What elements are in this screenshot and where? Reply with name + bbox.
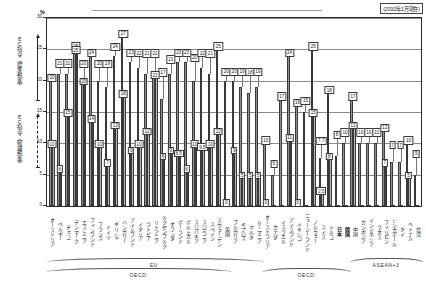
- category-label: エストニア: [79, 208, 87, 256]
- bar-group: 2414: [88, 18, 96, 206]
- bar-group: 7: [397, 18, 405, 206]
- reduced-rate-value: 9: [231, 147, 237, 155]
- category-label: カナダ: [270, 208, 278, 256]
- ec-reduced-label: ＥＣ指令（軽減税率）: [17, 114, 23, 166]
- reduced-rate-bar: [337, 205, 340, 206]
- bar-group: 219: [167, 18, 175, 206]
- reduced-rate-value: 5: [247, 172, 253, 180]
- reduced-rate-bar: [60, 168, 63, 206]
- callout-leader-line: [163, 74, 164, 99]
- bar-group: 2411: [286, 18, 294, 206]
- category-label: スウェーデン: [214, 208, 222, 256]
- reduced-rate-value: 10: [135, 140, 144, 148]
- standard-rate-value: 7.7: [316, 137, 327, 145]
- reduced-rate-bar: [187, 168, 190, 206]
- bar-group: 105: [404, 18, 412, 206]
- reduced-rate-bar: [290, 137, 293, 206]
- reduced-rate-value: 21: [151, 71, 160, 79]
- bar-series-container: 2010216211525252020241420101972413271823…: [47, 18, 421, 206]
- category-label: フィリピン: [381, 208, 389, 256]
- category-label: スイス: [317, 208, 325, 256]
- bar-group: 2413: [111, 18, 119, 206]
- y-axis-tick-mark: [43, 80, 46, 81]
- category-label: カンボジア: [357, 208, 365, 256]
- reduced-rate-value: 10: [48, 140, 57, 148]
- group-bracket-label: OECD: [130, 272, 147, 278]
- bar-group: 2515: [309, 18, 317, 206]
- reduced-rate-value: 2,5: [316, 187, 326, 195]
- callout-leader-line: [107, 66, 108, 87]
- reduced-rate-bar: [305, 205, 308, 206]
- bar-group: 195: [254, 18, 262, 206]
- category-label: ギリシャ: [111, 208, 119, 256]
- category-label: リトアニア: [150, 208, 158, 256]
- bar-group: 7.72,5: [317, 18, 325, 206]
- bar-group: 200: [222, 18, 230, 206]
- callout-leader-line: [393, 147, 394, 162]
- callout-leader-line: [250, 74, 251, 93]
- standard-rate-bar: [295, 106, 298, 206]
- standard-rate-value: 17: [277, 92, 286, 100]
- y-axis-tick-label: 25: [28, 46, 42, 51]
- reduced-rate-bar: [179, 153, 182, 206]
- standard-rate-value: 18: [325, 86, 334, 94]
- category-label: メキシコ: [294, 208, 302, 256]
- bar-group: 160: [294, 18, 302, 206]
- callout-leader-line: [99, 66, 100, 81]
- bar-group: 238,5: [175, 18, 183, 206]
- reduced-rate-bar: [377, 205, 380, 206]
- plot-area: 2010216211525252020241420101972413271823…: [46, 17, 422, 207]
- standard-rate-value: 12: [380, 124, 389, 132]
- bar-group: 178: [159, 18, 167, 206]
- y-axis-tick-label: 20: [28, 77, 42, 82]
- reduced-rate-bar: [369, 205, 372, 206]
- standard-rate-value: 27: [119, 30, 128, 38]
- category-label: ブルガリア: [230, 208, 238, 256]
- bar-group: 10: [341, 18, 349, 206]
- standard-rate-bar: [390, 162, 393, 206]
- reduced-rate-bar: [401, 205, 404, 206]
- standard-rate-value: 10: [404, 136, 413, 144]
- category-label: タイ: [397, 208, 405, 256]
- bar-group: 229,5: [199, 18, 207, 206]
- reduced-rate-value: 12: [214, 128, 223, 136]
- standard-rate-bar: [263, 143, 266, 206]
- y-axis-tick-label: 10: [28, 140, 42, 145]
- reduced-rate-value: 13: [111, 122, 120, 130]
- y-axis-tick-mark: [43, 174, 46, 175]
- standard-rate-bar: [279, 99, 282, 206]
- category-label: ポーランド: [174, 208, 182, 256]
- y-axis-tick-label: 5: [28, 171, 42, 176]
- bar-group: 8: [333, 18, 341, 206]
- standard-rate-value: 21: [63, 59, 72, 67]
- standard-rate-value: 20: [79, 60, 88, 68]
- category-label: ルーマニア: [254, 208, 262, 256]
- bar-group: 2010: [96, 18, 104, 206]
- standard-rate-bar: [414, 175, 417, 206]
- category-label: ベルギー: [55, 208, 63, 256]
- category-label: オーストリア: [47, 208, 55, 256]
- category-label: 韓国: [341, 208, 349, 256]
- y-axis-tick-mark: [43, 142, 46, 143]
- reduced-rate-bar: [155, 74, 158, 206]
- category-label: アイルランド: [127, 208, 135, 256]
- reduced-rate-value: 0: [294, 199, 300, 207]
- standard-rate-value: 19: [253, 68, 262, 76]
- category-label: マルタ: [246, 208, 254, 256]
- reduced-rate-bar: [361, 205, 364, 206]
- reduced-rate-bar: [147, 131, 150, 206]
- bar-group: 2121: [151, 18, 159, 206]
- standard-rate-bar: [224, 81, 227, 206]
- bar-group: 239: [127, 18, 135, 206]
- reduced-rate-bar: [92, 118, 95, 206]
- bar-group: 10: [357, 18, 365, 206]
- category-label: 中国: [349, 208, 357, 256]
- y-axis-tick-mark: [43, 111, 46, 112]
- group-bracket-label: ASEAN+3: [373, 262, 400, 268]
- reduced-rate-value: 10: [95, 140, 104, 148]
- standard-rate-value: 24: [285, 49, 294, 57]
- standard-rate-value: 25: [309, 42, 318, 50]
- bar-group: 2010: [48, 18, 56, 206]
- standard-rate-value: 15: [301, 97, 310, 105]
- bar-group: 7: [389, 18, 397, 206]
